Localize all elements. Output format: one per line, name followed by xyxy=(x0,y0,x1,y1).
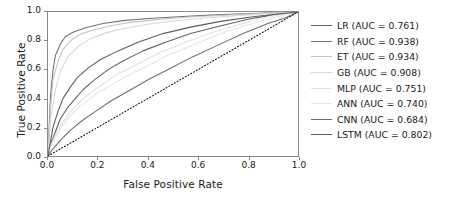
x-tick-label: 0.6 xyxy=(181,160,215,170)
y-tick-mark xyxy=(44,69,47,70)
legend-item-label: ET (AUC = 0.934) xyxy=(337,51,419,62)
legend-line-swatch xyxy=(311,25,332,26)
legend-item-label: RF (AUC = 0.938) xyxy=(337,36,419,47)
legend-item-gb[interactable]: GB (AUC = 0.908) xyxy=(311,65,456,81)
legend-item-mlp[interactable]: MLP (AUC = 0.751) xyxy=(311,80,456,96)
y-tick-mark xyxy=(44,99,47,100)
legend-item-cnn[interactable]: CNN (AUC = 0.684) xyxy=(311,112,456,128)
x-tick-label: 0.8 xyxy=(232,160,266,170)
legend: LR (AUC = 0.761)RF (AUC = 0.938)ET (AUC … xyxy=(311,18,456,143)
x-tick-label: 0.2 xyxy=(80,160,114,170)
x-tick-label: 1.0 xyxy=(282,160,316,170)
legend-line-swatch xyxy=(311,88,332,89)
legend-item-label: LR (AUC = 0.761) xyxy=(337,20,419,31)
y-tick-mark xyxy=(44,157,47,158)
x-tick-label: 0.0 xyxy=(30,160,64,170)
legend-line-swatch xyxy=(311,103,332,104)
legend-line-swatch xyxy=(311,56,332,57)
x-axis-label: False Positive Rate xyxy=(47,178,299,190)
legend-item-label: GB (AUC = 0.908) xyxy=(337,67,421,78)
roc-curve-figure: 0.00.20.40.60.81.0 0.00.20.40.60.81.0 Fa… xyxy=(0,0,456,198)
legend-item-label: LSTM (AUC = 0.802) xyxy=(337,129,432,140)
y-tick-mark xyxy=(44,128,47,129)
legend-item-label: CNN (AUC = 0.684) xyxy=(337,114,428,125)
y-axis-label: True Positive Rate xyxy=(15,17,27,163)
y-tick-mark xyxy=(44,40,47,41)
legend-item-label: ANN (AUC = 0.740) xyxy=(337,98,427,109)
legend-line-swatch xyxy=(311,134,332,135)
y-tick-mark xyxy=(44,11,47,12)
legend-item-lstm[interactable]: LSTM (AUC = 0.802) xyxy=(311,127,456,143)
y-tick-label: 1.0 xyxy=(15,5,41,15)
legend-item-ann[interactable]: ANN (AUC = 0.740) xyxy=(311,96,456,112)
legend-item-et[interactable]: ET (AUC = 0.934) xyxy=(311,49,456,65)
legend-line-swatch xyxy=(311,41,332,42)
roc-curves-svg xyxy=(48,12,298,156)
plot-area xyxy=(47,11,299,157)
legend-item-rf[interactable]: RF (AUC = 0.938) xyxy=(311,34,456,50)
legend-line-swatch xyxy=(311,72,332,73)
legend-item-label: MLP (AUC = 0.751) xyxy=(337,83,426,94)
legend-item-lr[interactable]: LR (AUC = 0.761) xyxy=(311,18,456,34)
chance-diagonal-line xyxy=(48,12,298,156)
legend-line-swatch xyxy=(311,119,332,120)
x-tick-label: 0.4 xyxy=(131,160,165,170)
